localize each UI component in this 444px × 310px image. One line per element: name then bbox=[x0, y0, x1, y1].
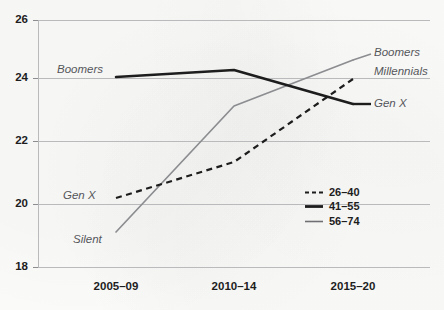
leader-boomers-right bbox=[353, 54, 371, 60]
annotation-boomers-left: Boomers bbox=[57, 63, 103, 75]
y-tick-label-18: 18 bbox=[0, 260, 28, 272]
y-tick-label-26: 26 bbox=[0, 13, 28, 25]
series-line-41-55 bbox=[116, 70, 353, 104]
x-tick-label-2010-14: 2010–14 bbox=[189, 280, 279, 292]
legend-label-56-74: 56–74 bbox=[329, 215, 360, 227]
chart-container: 26 24 22 20 18 2005–09 2010–14 2015–20 B… bbox=[0, 0, 444, 310]
y-tick-label-22: 22 bbox=[0, 134, 28, 146]
annotation-genx-left: Gen X bbox=[63, 189, 96, 201]
y-tick-label-24: 24 bbox=[0, 71, 28, 83]
gridlines bbox=[38, 21, 430, 268]
x-tick-label-2005-09: 2005–09 bbox=[71, 280, 161, 292]
legend-key-marks bbox=[305, 193, 323, 222]
annotation-genx-right: Gen X bbox=[374, 97, 407, 109]
legend-label-41-55: 41–55 bbox=[329, 200, 360, 212]
legend-label-26-40: 26–40 bbox=[329, 186, 360, 198]
x-tick-label-2015-20: 2015–20 bbox=[308, 280, 398, 292]
y-axis-ticks bbox=[33, 21, 38, 268]
series-line-26-40 bbox=[116, 79, 353, 198]
annotation-boomers-right: Boomers bbox=[374, 46, 420, 58]
annotation-silent-left: Silent bbox=[73, 233, 102, 245]
y-tick-label-20: 20 bbox=[0, 197, 28, 209]
annotation-millennials-right: Millennials bbox=[374, 65, 428, 77]
